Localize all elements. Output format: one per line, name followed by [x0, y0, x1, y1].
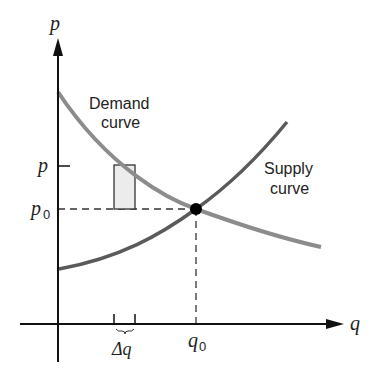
demand-label-line1: Demand	[89, 95, 149, 112]
q0-label: q	[188, 329, 198, 352]
p0-label-subscript: 0	[43, 207, 50, 222]
demand-label-line2: curve	[101, 114, 140, 131]
supply-label-line1: Supply	[264, 160, 313, 177]
supply-label-line2: curve	[270, 180, 309, 197]
x-axis-label: q	[350, 312, 360, 335]
p-label: p	[36, 154, 48, 177]
p0-label: p	[29, 197, 41, 220]
y-axis-arrow-icon	[53, 38, 63, 56]
delta-q-label: Δq	[111, 339, 132, 359]
supply-curve	[59, 122, 287, 269]
x-axis-arrow-icon	[326, 319, 344, 329]
q0-label-subscript: 0	[199, 339, 206, 354]
equilibrium-point	[190, 203, 202, 215]
supply-demand-diagram: p q p p 0 q 0 Δq Demand curve Supply cur…	[0, 0, 369, 381]
y-axis-label: p	[48, 12, 60, 35]
delta-q-brace	[116, 329, 134, 334]
